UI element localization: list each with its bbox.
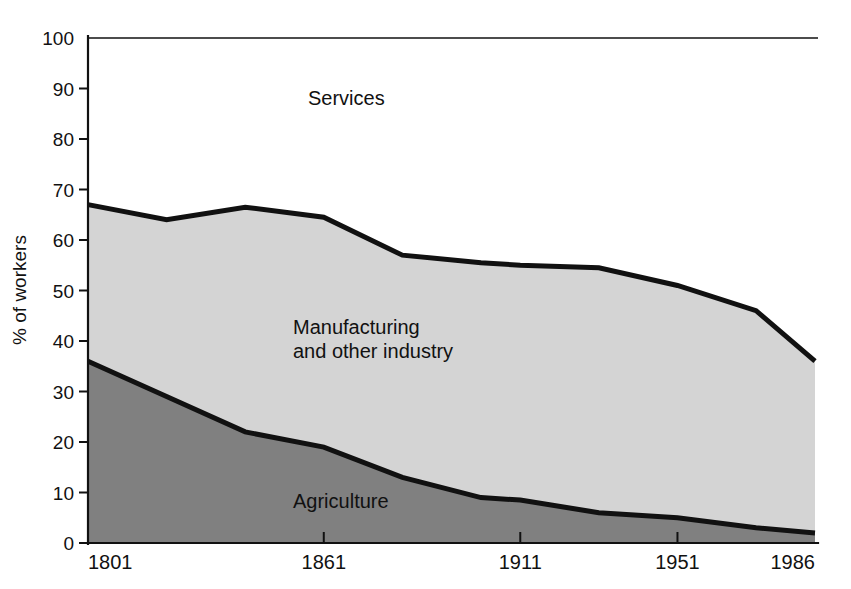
stacked-area-chart: 0102030405060708090100 18011861191119511… <box>0 0 851 589</box>
x-tick-label: 1861 <box>302 551 347 573</box>
x-tick-label: 1986 <box>771 551 816 573</box>
y-tick-label: 100 <box>42 28 74 49</box>
y-tick-label: 80 <box>53 129 74 150</box>
series-label-manufacturing-line2: and other industry <box>293 340 453 362</box>
y-tick-label: 70 <box>53 180 74 201</box>
x-tick-label: 1951 <box>655 551 700 573</box>
y-tick-label: 20 <box>53 432 74 453</box>
series-label-services: Services <box>308 87 385 109</box>
y-tick-label: 90 <box>53 79 74 100</box>
y-tick-label: 60 <box>53 230 74 251</box>
x-tick-label: 1801 <box>88 551 133 573</box>
y-axis-title: % of workers <box>9 235 30 345</box>
y-tick-label: 10 <box>53 483 74 504</box>
x-axis-tick-labels: 18011861191119511986 <box>88 551 815 573</box>
y-tick-label: 40 <box>53 331 74 352</box>
y-tick-label: 50 <box>53 281 74 302</box>
series-label-manufacturing-line1: Manufacturing <box>293 316 420 338</box>
y-axis-tick-labels: 0102030405060708090100 <box>42 28 74 554</box>
y-tick-label: 30 <box>53 382 74 403</box>
series-label-agriculture: Agriculture <box>293 490 389 512</box>
y-tick-label: 0 <box>63 533 74 554</box>
x-tick-label: 1911 <box>499 551 542 573</box>
chart-container: 0102030405060708090100 18011861191119511… <box>0 0 851 589</box>
